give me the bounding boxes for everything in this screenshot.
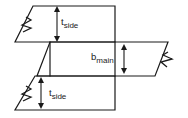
dimension-label-b-main-subscript: main	[96, 56, 113, 65]
break-mark-icon-middle-right	[161, 52, 172, 67]
dimension-label-t-side-bottom: tside	[49, 88, 66, 101]
dimension-label-t-side-bottom-subscript: side	[52, 92, 67, 101]
dimension-arrow-t-side-top	[54, 6, 60, 42]
dimension-label-t-side-top: tside	[61, 17, 78, 30]
dimension-arrow-b-main	[121, 44, 127, 74]
dimension-label-t-side-top-subscript: side	[64, 21, 79, 30]
engineering-cross-section-diagram: tside bmain tside	[0, 0, 188, 118]
dimension-arrow-t-side-bottom	[38, 77, 44, 109]
break-mark-icon-bottom-left	[22, 86, 31, 101]
dimension-label-b-main: bmain	[91, 52, 114, 65]
